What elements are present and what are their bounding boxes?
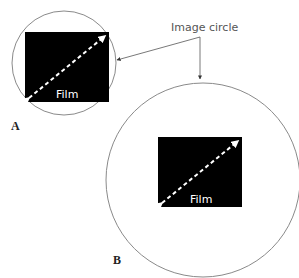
image-circle-callout: Image circle	[117, 21, 238, 79]
image-circle-diagram: Film A Film B Image circle	[0, 0, 299, 278]
panel-letter-b: B	[113, 253, 121, 267]
film-label-b: Film	[190, 193, 212, 206]
leader-to-circle-a	[117, 37, 200, 60]
callout-label: Image circle	[171, 21, 238, 34]
panel-b: Film B	[106, 83, 299, 277]
panel-letter-a: A	[11, 119, 20, 133]
film-label-a: Film	[56, 88, 78, 101]
panel-a: Film A	[11, 11, 116, 133]
